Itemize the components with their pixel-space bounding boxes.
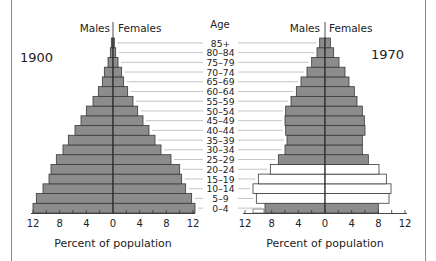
pyramid-1970-female-bar xyxy=(325,106,362,116)
age-group-label: 20–24 xyxy=(207,164,235,175)
pyramid-1970-female-bar xyxy=(325,145,362,155)
pyramid-1970-tick-label: 12 xyxy=(399,218,412,229)
pyramid-1900-female-bar xyxy=(113,106,138,116)
pyramid-1970-female-bar xyxy=(325,184,391,194)
pyramid-1970-female-bar xyxy=(325,57,339,67)
pyramid-1970-male-bar xyxy=(285,116,325,126)
pyramid-charts: 1900 1970 Age Males Females Males Female… xyxy=(0,0,436,261)
pyramid-1900-tick-label: 12 xyxy=(27,218,40,229)
pyramid-1900-tick-label: 8 xyxy=(163,218,169,229)
pyramid-1970-female-bar xyxy=(325,155,368,165)
age-group-label: 25–29 xyxy=(207,154,235,165)
age-axis-title: Age xyxy=(210,19,229,30)
pyramid-1970-male-bar xyxy=(278,155,325,165)
females-label-1900: Females xyxy=(118,22,161,34)
pyramid-1900-tick-label: 4 xyxy=(136,218,142,229)
pyramid-1970-female-bar xyxy=(325,67,345,77)
age-group-label: 60–64 xyxy=(207,86,235,97)
pyramid-1900-female-bar xyxy=(113,184,186,194)
pyramid-1970-female-bar xyxy=(325,126,365,136)
pyramid-1900-male-bar xyxy=(104,67,113,77)
pyramid-1900-female-bar xyxy=(113,116,143,126)
pyramid-1900-male-bar xyxy=(49,174,113,184)
pyramid-1900-tick-label: 4 xyxy=(83,218,89,229)
pyramid-1900-female-bar xyxy=(113,155,171,165)
pyramid-1900-female-bar xyxy=(113,145,161,155)
females-label-1970: Females xyxy=(329,22,372,34)
left-frame-border xyxy=(11,0,12,261)
pyramid-1900-female-bar xyxy=(113,135,155,145)
pyramid-1900-male-bar xyxy=(98,87,113,97)
pyramid-1970-male-bar xyxy=(296,87,325,97)
pyramid-1900-female-bar xyxy=(113,87,128,97)
age-group-label: 30–34 xyxy=(207,144,235,155)
pyramid-1970-male-bar xyxy=(253,184,325,194)
pyramid-1970-male-bar xyxy=(258,174,325,184)
age-group-label: 80–84 xyxy=(207,47,235,58)
pyramid-1900-male-bar xyxy=(102,77,113,87)
age-group-label: 15–19 xyxy=(207,174,235,185)
pyramid-1900-male-bar xyxy=(108,57,113,67)
pyramid-1900-male-bar xyxy=(36,194,113,204)
pyramid-1970-tick-label: 0 xyxy=(322,218,328,229)
pyramid-1900-female-bar xyxy=(113,67,122,77)
pyramid-1970-male-bar xyxy=(256,194,325,204)
age-group-label: 65–69 xyxy=(207,76,235,87)
pyramid-1900-male-bar xyxy=(43,184,113,194)
age-group-label: 35–39 xyxy=(207,135,235,146)
pyramid-1970-male-bar xyxy=(287,135,325,145)
pyramid-1970-male-bar xyxy=(307,67,325,77)
pyramid-1970-male-bar xyxy=(291,96,325,106)
pyramid-1900-male-bar xyxy=(86,106,113,116)
pyramid-1970-male-bar xyxy=(265,203,325,213)
age-group-label: 55–59 xyxy=(207,96,235,107)
pyramid-1970-male-bar xyxy=(301,77,325,87)
pyramid-1900-female-bar xyxy=(113,57,118,67)
pyramid-1900-male-bar xyxy=(63,145,113,155)
pyramid-1970-female-bar xyxy=(325,87,354,97)
pyramid-1900-tick-label: 8 xyxy=(56,218,62,229)
x-axis-title-1970: Percent of population xyxy=(266,237,384,250)
pyramid-1970-male-bar xyxy=(286,106,325,116)
pyramid-1970-male-bar xyxy=(317,48,325,58)
age-group-label: 0–4 xyxy=(212,203,228,214)
pyramid-1900-female-bar xyxy=(113,126,149,136)
pyramid-1970-female-bar xyxy=(325,116,364,126)
pyramid-1900-female-bar xyxy=(113,194,192,204)
age-group-label: 70–74 xyxy=(207,67,235,78)
age-group-label: 75–79 xyxy=(207,57,235,68)
males-label-1900: Males xyxy=(80,22,110,34)
pyramid-1900-male-bar xyxy=(81,116,113,126)
pyramid-1900-female-bar xyxy=(113,77,124,87)
pyramid-1970-tick-label: 4 xyxy=(295,218,301,229)
pyramid-1970-male-bar xyxy=(286,126,325,136)
pyramid-1970-female-bar xyxy=(325,174,386,184)
pyramid-1970-axis-notch xyxy=(253,209,264,213)
pyramid-1970-female-bar xyxy=(325,96,357,106)
right-frame-border xyxy=(425,0,426,261)
age-group-label: 40–44 xyxy=(207,125,235,136)
pyramid-1970-tick-label: 4 xyxy=(348,218,354,229)
age-group-label: 45–49 xyxy=(207,115,235,126)
pyramid-1900-female-bar xyxy=(113,164,180,174)
pyramid-1970-tick-label: 8 xyxy=(375,218,381,229)
pyramid-1970-male-bar xyxy=(312,57,325,67)
pyramid-1900-male-bar xyxy=(68,135,113,145)
pyramid-1900-tick-label: 0 xyxy=(110,218,116,229)
age-group-label: 10–14 xyxy=(207,183,235,194)
pyramid-1970-female-bar xyxy=(325,164,379,174)
pyramid-1970-tick-label: 8 xyxy=(268,218,274,229)
pyramid-1970-tick-label: 12 xyxy=(239,218,252,229)
pyramid-1970-female-bar xyxy=(325,194,389,204)
pyramid-1970-female-bar xyxy=(325,38,330,48)
pyramid-1900-male-bar xyxy=(51,164,113,174)
pyramid-1900-male-bar xyxy=(93,96,113,106)
pyramid-1970-female-bar xyxy=(325,77,349,87)
pyramid-1900-male-bar xyxy=(56,155,113,165)
age-group-label: 5–9 xyxy=(212,193,228,204)
population-pyramid-figure: 1900 1970 Age Males Females Males Female… xyxy=(0,0,436,261)
pyramid-1900-male-bar xyxy=(75,126,113,136)
pyramid-1970-male-bar xyxy=(320,38,325,48)
year-label-1970: 1970 xyxy=(371,47,404,62)
pyramid-1970-male-bar xyxy=(270,164,325,174)
